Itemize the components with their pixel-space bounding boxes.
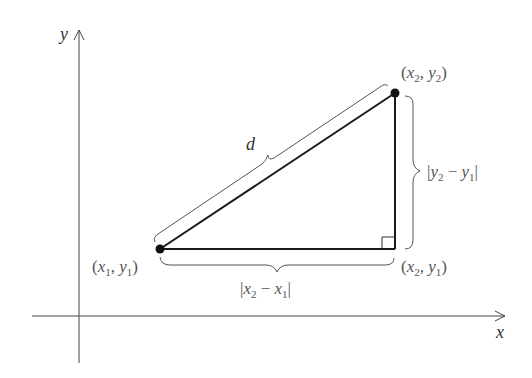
corner-point-label: (x2, y1) bbox=[401, 257, 447, 278]
horizontal-brace bbox=[160, 257, 394, 272]
right-triangle bbox=[160, 93, 395, 249]
hypotenuse-label: d bbox=[246, 134, 256, 154]
right-angle-marker bbox=[382, 237, 395, 249]
horizontal-distance-label: |x2 − x1| bbox=[240, 279, 291, 300]
vertical-distance-label: |y2 − y1| bbox=[427, 162, 478, 183]
point-p2-label: (x2, y2) bbox=[401, 63, 447, 84]
point-p2 bbox=[391, 89, 400, 98]
hypotenuse bbox=[160, 93, 395, 249]
vertical-brace bbox=[405, 96, 420, 249]
y-axis-label: y bbox=[58, 24, 68, 44]
distance-diagram: y x d (x1, y1) (x2, y2) (x2, y1) |x2 − x… bbox=[0, 0, 532, 378]
x-axis-label: x bbox=[495, 322, 504, 342]
hypotenuse-brace bbox=[154, 85, 388, 242]
point-p1-label: (x1, y1) bbox=[92, 257, 138, 278]
point-p1 bbox=[156, 245, 165, 254]
